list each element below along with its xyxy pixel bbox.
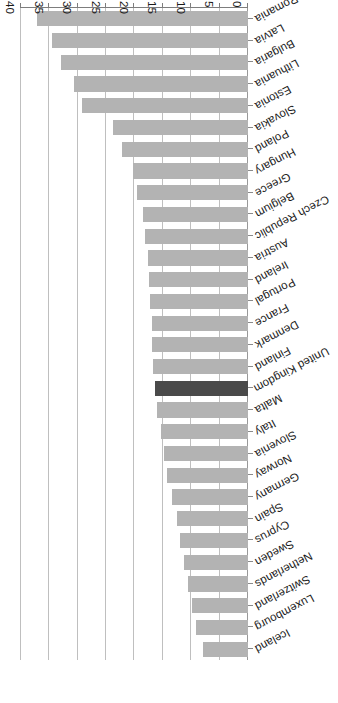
category-tick	[248, 279, 253, 280]
bar-spain	[177, 511, 248, 526]
category-tick	[248, 105, 253, 106]
bar-malta	[157, 402, 248, 417]
bar-portugal	[150, 294, 248, 309]
bar-row	[21, 51, 248, 73]
bar-row	[21, 138, 248, 160]
bar-sweden	[184, 555, 248, 570]
bar-netherlands	[188, 576, 248, 591]
category-tick	[248, 61, 253, 62]
bar-row	[21, 117, 248, 139]
bar-iceland	[203, 642, 248, 657]
bar-denmark	[152, 337, 248, 352]
bar-norway	[167, 468, 248, 483]
bar-row	[21, 95, 248, 117]
bar-row	[21, 356, 248, 378]
bar-row	[21, 638, 248, 660]
category-tick	[248, 366, 253, 367]
category-tick	[248, 235, 253, 236]
scale-tick	[77, 3, 78, 8]
category-tick	[248, 605, 253, 606]
scale-tick	[219, 3, 220, 8]
category-tick	[248, 257, 253, 258]
category-tick	[248, 127, 253, 128]
category-tick	[248, 213, 253, 214]
bar-united-kingdom	[155, 381, 248, 396]
bar-row	[21, 508, 248, 530]
bar-austria	[148, 250, 248, 265]
scale-tick	[105, 3, 106, 8]
scale-tick-label: 5	[203, 1, 215, 8]
scale-tick-label: 20	[118, 1, 130, 14]
bar-finland	[153, 359, 248, 374]
bar-poland	[122, 142, 248, 157]
bar-ireland	[149, 272, 248, 287]
category-tick	[248, 344, 253, 345]
scale-tick	[48, 3, 49, 8]
scale-tick	[134, 3, 135, 8]
bar-row	[21, 443, 248, 465]
scale-tick-label: 0	[232, 1, 244, 8]
bar-greece	[137, 185, 248, 200]
scale-tick-label: 40	[5, 1, 17, 14]
scale-tick-label: 30	[61, 1, 73, 14]
category-tick	[248, 496, 253, 497]
bar-row	[21, 486, 248, 508]
scale-tick	[247, 3, 248, 8]
bar-row	[21, 617, 248, 639]
bar-row	[21, 247, 248, 269]
bar-row	[21, 334, 248, 356]
category-tick	[248, 40, 253, 41]
bar-row	[21, 182, 248, 204]
category-tick	[248, 626, 253, 627]
scale-tick	[20, 3, 21, 8]
bar-slovakia	[113, 120, 248, 135]
scale-tick-label: 10	[175, 1, 187, 14]
bar-row	[21, 73, 248, 95]
bar-slovenia	[164, 446, 248, 461]
category-tick	[248, 148, 253, 149]
category-tick	[248, 518, 253, 519]
category-tick	[248, 431, 253, 432]
bar-row	[21, 160, 248, 182]
bar-row	[21, 595, 248, 617]
bar-row	[21, 464, 248, 486]
bar-row	[21, 312, 248, 334]
category-tick	[248, 409, 253, 410]
bar-row	[21, 377, 248, 399]
bar-estonia	[82, 98, 248, 113]
bar-row	[21, 291, 248, 313]
bar-lithuania	[74, 76, 248, 91]
bar-cyprus	[180, 533, 248, 548]
category-tick	[248, 474, 253, 475]
category-tick	[248, 322, 253, 323]
category-tick	[248, 83, 253, 84]
bar-row	[21, 573, 248, 595]
category-tick	[248, 539, 253, 540]
bar-switzerland	[192, 598, 248, 613]
bar-italy	[161, 424, 248, 439]
category-tick	[248, 648, 253, 649]
scale-tick	[190, 3, 191, 8]
category-tick	[248, 453, 253, 454]
bar-row	[21, 421, 248, 443]
category-tick	[248, 300, 253, 301]
bar-germany	[172, 489, 248, 504]
bar-row	[21, 204, 248, 226]
bar-chart: 4035302520151050 RomaniaLatviaBulgariaLi…	[0, 0, 338, 703]
bar-luxembourg	[196, 620, 248, 635]
bar-hungary	[133, 163, 248, 178]
bar-row	[21, 551, 248, 573]
scale-tick	[162, 3, 163, 8]
scale-tick-label: 15	[146, 1, 158, 14]
plot-area	[21, 8, 248, 660]
category-tick	[248, 561, 253, 562]
chart-figure: 4035302520151050 RomaniaLatviaBulgariaLi…	[0, 0, 338, 703]
category-tick	[248, 583, 253, 584]
bar-bulgaria	[61, 55, 248, 70]
category-tick	[248, 18, 253, 19]
category-tick	[248, 170, 253, 171]
bar-row	[21, 8, 248, 30]
scale-tick-label: 25	[90, 1, 102, 14]
bar-belgium	[143, 207, 248, 222]
bar-czech-republic	[145, 229, 248, 244]
